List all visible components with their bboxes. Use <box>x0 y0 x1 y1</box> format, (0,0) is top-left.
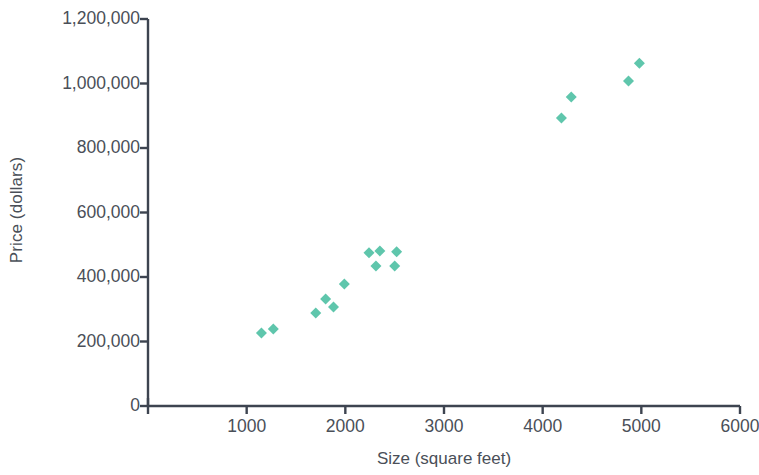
data-point-marker <box>328 301 339 312</box>
data-point-marker <box>268 323 279 334</box>
data-point-marker <box>566 92 577 103</box>
data-point-marker <box>339 279 350 290</box>
data-point-marker <box>256 328 267 339</box>
data-markers <box>256 58 645 339</box>
data-point-marker <box>623 75 634 86</box>
data-point-marker <box>310 308 321 319</box>
data-point-marker <box>320 293 331 304</box>
data-point-marker <box>556 113 567 124</box>
data-point-marker <box>634 58 645 69</box>
data-point-marker <box>374 245 385 256</box>
data-point-marker <box>370 261 381 272</box>
data-point-marker <box>391 246 402 257</box>
data-point-marker <box>364 247 375 258</box>
axes <box>140 19 740 414</box>
data-point-marker <box>389 261 400 272</box>
